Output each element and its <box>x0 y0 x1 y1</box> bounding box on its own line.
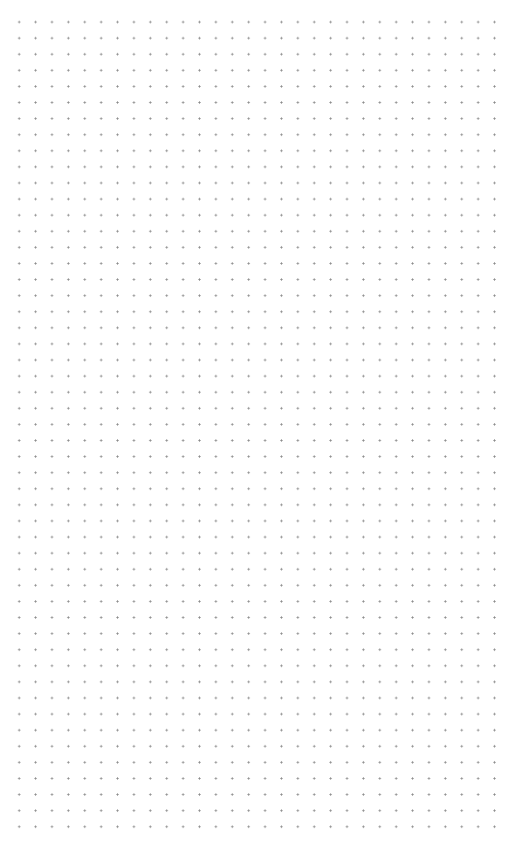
dot-grid-canvas <box>11 14 503 835</box>
